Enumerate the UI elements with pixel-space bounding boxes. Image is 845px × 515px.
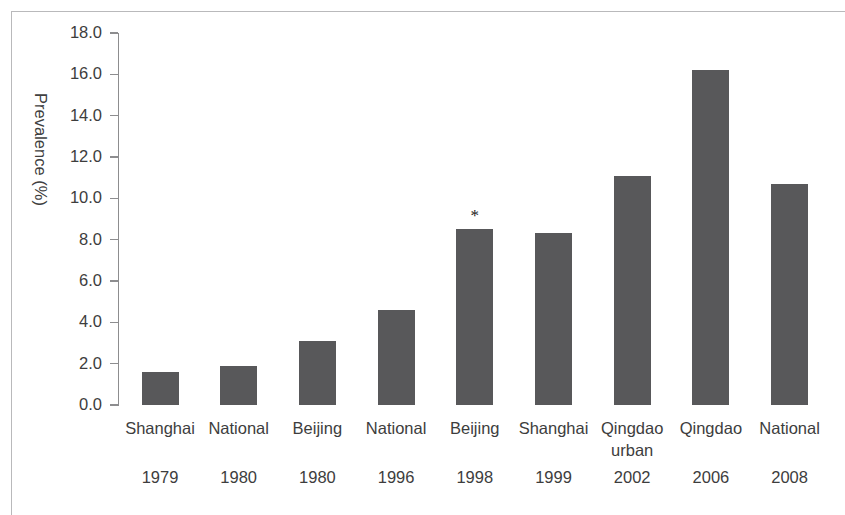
bar (299, 341, 336, 405)
bar (771, 184, 808, 405)
bar (692, 70, 729, 405)
bar (220, 366, 257, 405)
x-axis-category-label: National (742, 418, 838, 440)
x-axis-category-line-1: National (742, 418, 838, 440)
bar-chart-figure: Prevalence (%) 0.02.04.06.08.010.012.014… (0, 0, 845, 515)
x-axis-category-line-2: urban (584, 440, 680, 462)
bar (614, 176, 651, 405)
bar (378, 310, 415, 405)
bar (535, 233, 572, 405)
bar-annotation-asterisk: * (455, 207, 495, 224)
bar (456, 229, 493, 405)
x-axis-year-label: 2008 (742, 468, 838, 487)
plot-area: * (0, 0, 845, 406)
bar (142, 372, 179, 405)
